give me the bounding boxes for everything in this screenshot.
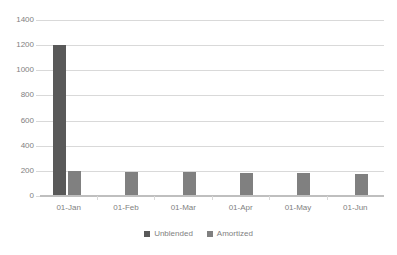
y-axis-tick-label: 800 <box>21 91 34 99</box>
y-axis-tick-label: 1000 <box>16 66 34 74</box>
legend-label: Unblended <box>154 229 193 238</box>
legend-swatch-icon <box>144 231 150 237</box>
bar-group <box>40 20 97 196</box>
bar-chart: 0200400600800100012001400 01-Jan01-Feb01… <box>0 0 397 255</box>
y-axis: 0200400600800100012001400 <box>0 0 40 216</box>
x-axis-tick-label: 01-Jun <box>327 200 384 216</box>
bar-amortized-01-may[interactable] <box>297 173 310 196</box>
bar-unblended-01-jan[interactable] <box>53 45 66 196</box>
legend-swatch-icon <box>207 231 213 237</box>
y-axis-tick-label: 0 <box>30 192 34 200</box>
plot-area <box>40 20 384 196</box>
bar-amortized-01-apr[interactable] <box>240 173 253 196</box>
bars-layer <box>40 20 384 196</box>
x-axis-tick-label: 01-Jan <box>40 200 97 216</box>
bar-group <box>269 20 326 196</box>
y-axis-tick-label: 200 <box>21 167 34 175</box>
chart-legend: UnblendedAmortized <box>0 229 397 238</box>
x-axis-tick-label: 01-Feb <box>97 200 154 216</box>
bar-amortized-01-jan[interactable] <box>68 171 81 196</box>
y-axis-tick-label: 400 <box>21 142 34 150</box>
y-axis-tick-label: 1400 <box>16 16 34 24</box>
x-axis-tick-label: 01-Apr <box>212 200 269 216</box>
bar-group <box>155 20 212 196</box>
x-axis-tick-label: 01-May <box>269 200 326 216</box>
legend-item-amortized[interactable]: Amortized <box>207 229 253 238</box>
bar-group <box>97 20 154 196</box>
bar-amortized-01-mar[interactable] <box>183 172 196 196</box>
y-axis-tick-label: 1200 <box>16 41 34 49</box>
bar-amortized-01-feb[interactable] <box>125 172 138 197</box>
y-axis-tick-label: 600 <box>21 117 34 125</box>
legend-label: Amortized <box>217 229 253 238</box>
x-axis: 01-Jan01-Feb01-Mar01-Apr01-May01-Jun <box>40 200 384 216</box>
legend-item-unblended[interactable]: Unblended <box>144 229 193 238</box>
bar-group <box>327 20 384 196</box>
bar-group <box>212 20 269 196</box>
bar-amortized-01-jun[interactable] <box>355 174 368 196</box>
x-axis-tick-label: 01-Mar <box>155 200 212 216</box>
